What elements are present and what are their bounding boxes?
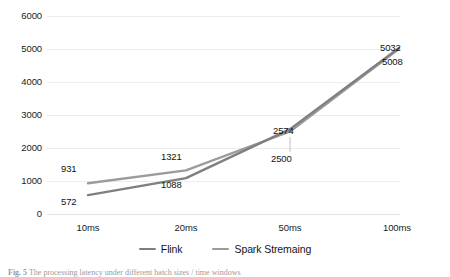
point-label-flink-50ms: 2574 bbox=[273, 126, 294, 136]
point-label-spark-10ms: 931 bbox=[61, 164, 77, 174]
point-label-flink-10ms: 572 bbox=[61, 197, 77, 207]
figure-caption-text: The processing latency under different b… bbox=[29, 268, 241, 277]
point-label-spark-20ms: 1321 bbox=[161, 152, 182, 162]
x-tick-20ms: 20ms bbox=[151, 222, 221, 233]
chart-legend: Flink Spark Stremaing bbox=[0, 243, 450, 255]
x-tick-50ms: 50ms bbox=[255, 222, 325, 233]
legend-swatch-flink-icon bbox=[139, 248, 156, 251]
figure-container: 6000 5000 4000 3000 2000 1000 0 931 1321… bbox=[0, 0, 450, 277]
legend-label-spark-stremaing: Spark Stremaing bbox=[234, 243, 311, 255]
legend-item-flink[interactable]: Flink bbox=[139, 243, 183, 255]
figure-caption-number: Fig. 5 bbox=[8, 268, 27, 277]
x-tick-10ms: 10ms bbox=[53, 222, 123, 233]
legend-label-flink: Flink bbox=[161, 243, 183, 255]
legend-swatch-spark-icon bbox=[212, 248, 229, 251]
figure-caption: Fig. 5 The processing latency under diff… bbox=[8, 268, 448, 277]
point-label-flink-100ms: 5032 bbox=[380, 43, 401, 53]
legend-item-spark-stremaing[interactable]: Spark Stremaing bbox=[212, 243, 311, 255]
line-spark-stremaing bbox=[88, 49, 399, 184]
point-label-spark-100ms: 5008 bbox=[382, 57, 403, 67]
point-label-flink-20ms: 1088 bbox=[161, 180, 182, 190]
point-label-spark-50ms: 2500 bbox=[271, 154, 292, 164]
x-tick-100ms: 100ms bbox=[362, 222, 432, 233]
line-flink bbox=[88, 48, 399, 195]
